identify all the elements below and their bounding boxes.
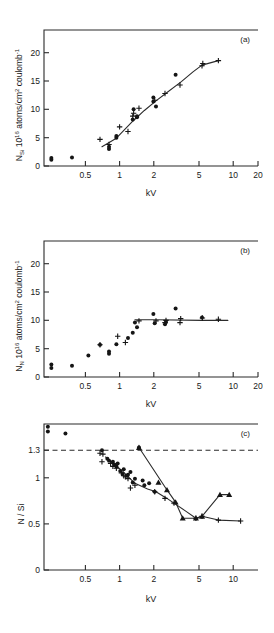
- ylabel-rest: 10: [14, 138, 24, 148]
- axis-frame: [44, 241, 258, 377]
- data-point-circle: [122, 467, 126, 471]
- panel-c: 0 0.5 1 1.3 0.5 1 2 5 10 kV (c) N / Si: [0, 422, 274, 633]
- data-point-circle: [126, 336, 130, 340]
- data-point-plus: [128, 485, 133, 490]
- data-point-circle: [46, 430, 50, 434]
- ylabel-rest: 10: [14, 349, 24, 359]
- panel-a-y-ticklabels: 0 5 10 15 20: [31, 48, 41, 171]
- data-point-circle: [147, 481, 151, 485]
- x-ticklabel: 20: [253, 381, 263, 391]
- data-point-circle: [49, 366, 53, 370]
- data-point-circle: [70, 364, 74, 368]
- panel-label-b: (b): [240, 246, 250, 255]
- x-ticklabel: 1: [117, 381, 122, 391]
- panel-b-plot: 0 5 10 15 20 0.5 1 2 5 10 20 kV (b) NN 1…: [0, 211, 274, 422]
- panel-b-y-axis-label: NN 1016 atoms/cm2 coulomb-1: [14, 260, 25, 372]
- data-point-circle: [135, 325, 139, 329]
- data-point-circle: [133, 477, 137, 481]
- panel-a-plot: 0 5 10 15 20 0.5 1 2 5 10 20 kV (a) NSi …: [0, 0, 274, 211]
- ylabel-units-tail-exp: -1: [14, 48, 20, 54]
- axis-frame: [44, 30, 258, 166]
- panel-c-x-ticks: [85, 565, 233, 570]
- x-ticklabel: 1: [117, 170, 122, 180]
- ylabel-units-tail: coulomb: [14, 265, 24, 300]
- ylabel-units-tail-exp: -1: [14, 260, 20, 266]
- data-point-plus: [152, 489, 157, 494]
- panel-c-y-axis-label: N / Si: [16, 503, 26, 524]
- x-ticklabel: 20: [253, 170, 263, 180]
- data-point-plus: [136, 106, 141, 111]
- data-point-circle: [49, 363, 53, 367]
- y-ticklabel: 20: [31, 48, 41, 58]
- data-point-circle: [141, 479, 145, 483]
- panel-label-c: (c): [241, 429, 251, 438]
- triangle-trend-line: [139, 448, 229, 519]
- axis-frame: [44, 424, 258, 570]
- data-point-circle: [63, 431, 67, 435]
- x-ticklabel: 0.5: [79, 170, 91, 180]
- x-ticklabel: 10: [228, 381, 238, 391]
- plateau-line: [135, 320, 228, 321]
- ylabel-units-tail: coulomb: [14, 54, 24, 89]
- data-point-circle: [151, 312, 155, 316]
- data-point-plus: [216, 517, 221, 522]
- data-point-circle: [174, 306, 178, 310]
- panel-a-datapoints: [49, 58, 221, 162]
- y-ticklabel: 0: [35, 565, 40, 575]
- y-ticklabel: 10: [31, 315, 41, 325]
- data-point-plus: [130, 113, 135, 118]
- y-ticklabel: 1.3: [28, 445, 40, 455]
- panel-b-x-ticklabels: 0.5 1 2 5 10 20: [79, 381, 263, 391]
- x-ticklabel: 5: [197, 381, 202, 391]
- data-point-plus: [100, 451, 105, 456]
- panel-b-y-ticklabels: 0 5 10 15 20: [31, 259, 41, 382]
- x-axis-label: kV: [146, 188, 157, 198]
- data-point-plus: [115, 334, 120, 339]
- ylabel-text: N / Si: [16, 503, 26, 524]
- x-ticklabel: 5: [197, 170, 202, 180]
- panel-c-plot: 0 0.5 1 1.3 0.5 1 2 5 10 kV (c) N / Si: [0, 422, 274, 633]
- data-point-circle: [70, 156, 74, 160]
- y-ticklabel: 15: [31, 287, 41, 297]
- x-ticklabel: 2: [151, 574, 156, 584]
- panel-a-y-ticks: [44, 53, 49, 166]
- x-ticklabel: 10: [228, 574, 238, 584]
- panel-c-x-ticklabels: 0.5 1 2 5 10: [79, 574, 238, 584]
- panel-label-a: (a): [240, 35, 250, 44]
- ylabel-units: atoms/cm: [14, 303, 24, 342]
- panel-b-plateau-curve: [135, 320, 228, 321]
- panel-a-axes: [44, 30, 258, 166]
- panel-b-y-ticks: [44, 264, 49, 377]
- data-point-circle: [131, 331, 135, 335]
- figure-root: 0 5 10 15 20 0.5 1 2 5 10 20 kV (a) NSi …: [0, 0, 274, 633]
- data-point-plus: [136, 318, 141, 323]
- ylabel-units: atoms/cm: [14, 92, 24, 131]
- data-point-circle: [154, 105, 158, 109]
- panel-b-datapoints: [49, 306, 221, 370]
- data-point-circle: [135, 114, 139, 118]
- x-ticklabel: 0.5: [79, 574, 91, 584]
- y-ticklabel: 5: [35, 344, 40, 354]
- y-ticklabel: 10: [31, 104, 41, 114]
- panel-a-trend-curve: [102, 61, 218, 147]
- y-ticklabel: 5: [35, 133, 40, 143]
- panel-c-datapoints: [46, 425, 243, 524]
- x-ticklabel: 0.5: [79, 381, 91, 391]
- panel-b: 0 5 10 15 20 0.5 1 2 5 10 20 kV (b) NN 1…: [0, 211, 274, 422]
- data-point-circle: [46, 425, 50, 429]
- panel-c-y-ticklabels: 0 0.5 1 1.3: [28, 445, 40, 575]
- x-ticklabel: 1: [117, 574, 122, 584]
- svg-text:NSi 1016 atoms/cm2 coulomb-1: NSi 1016 atoms/cm2 coulomb-1: [14, 48, 25, 161]
- panel-c-y-ticks: [44, 450, 49, 570]
- data-point-circle: [128, 470, 132, 474]
- panel-b-x-ticks: [85, 372, 258, 377]
- data-point-plus: [216, 58, 221, 63]
- data-point-circle: [49, 156, 53, 160]
- data-point-circle: [131, 480, 135, 484]
- panel-a: 0 5 10 15 20 0.5 1 2 5 10 20 kV (a) NSi …: [0, 0, 274, 211]
- x-axis-label: kV: [146, 399, 157, 409]
- x-ticklabel: 10: [228, 170, 238, 180]
- x-ticklabel: 2: [151, 170, 156, 180]
- svg-text:NN 1016 atoms/cm2 coulomb-1: NN 1016 atoms/cm2 coulomb-1: [14, 260, 25, 372]
- y-ticklabel: 0: [35, 372, 40, 382]
